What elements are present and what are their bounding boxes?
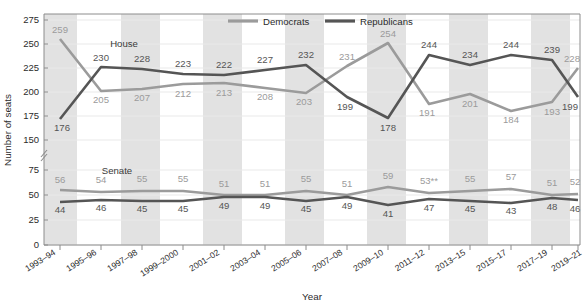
x-tick-2003-04: 2003–04: [228, 247, 262, 273]
data-label: 191: [419, 107, 435, 118]
data-label: 208: [257, 91, 273, 102]
x-tick-1993-94: 1993–94: [23, 247, 57, 273]
x-tick-2001-02: 2001–02: [187, 247, 221, 273]
data-label: 57: [506, 171, 517, 182]
data-label: 44: [55, 204, 66, 215]
data-label: 205: [93, 94, 109, 105]
x-tick-1997-98: 1997–98: [105, 247, 139, 273]
data-label: 199: [337, 101, 353, 112]
data-label: 51: [219, 178, 230, 189]
chart-container: 259 205 207 212 213 208 203 231 254 191 …: [0, 0, 587, 305]
data-label: 51: [260, 178, 271, 189]
x-tick-2019-21: 2019–21: [549, 247, 583, 273]
data-label: 43: [506, 205, 517, 216]
data-label: 201: [462, 98, 478, 109]
data-label: 45: [178, 203, 189, 214]
data-label: 48: [547, 201, 558, 212]
x-axis-title: Year: [302, 291, 323, 302]
data-label: 184: [503, 114, 520, 125]
data-label: 49: [260, 200, 271, 211]
data-label: 193: [544, 106, 560, 117]
data-label: 55: [301, 173, 312, 184]
x-tick-2011-12: 2011–12: [393, 247, 426, 273]
data-label: 47: [424, 202, 435, 213]
data-label: 45: [301, 203, 312, 214]
y-tick-0: 0: [34, 239, 39, 250]
data-label: 254: [380, 28, 397, 39]
data-label: 203: [296, 96, 312, 107]
data-label: 51: [547, 177, 558, 188]
data-label: 223: [175, 58, 191, 69]
annotation-house: House: [110, 38, 138, 49]
x-tick-2007-08: 2007–08: [310, 247, 344, 273]
data-label: 41: [383, 208, 394, 219]
seats-line-chart: 259 205 207 212 213 208 203 231 254 191 …: [0, 0, 587, 305]
data-label: 49: [219, 200, 230, 211]
data-label: 239: [544, 44, 560, 55]
x-tick-2005-06: 2005–06: [269, 247, 303, 273]
data-label: 207: [134, 92, 150, 103]
data-label: 222: [216, 59, 232, 70]
x-tick-2017-19: 2017–19: [515, 247, 549, 273]
y-tick-200: 200: [23, 86, 39, 97]
y-tick-150: 150: [23, 134, 39, 145]
data-label: 176: [54, 122, 70, 133]
legend-label-democrats[interactable]: Democrats: [263, 16, 310, 27]
x-tick-1995-96: 1995–96: [64, 247, 98, 273]
data-label: 234: [462, 49, 479, 60]
data-label: 56: [55, 174, 66, 185]
y-tick-labels: 275 250 225 200 175 150 75 50 25 0: [23, 14, 39, 250]
data-label: 178: [380, 122, 396, 133]
data-label: 230: [93, 52, 109, 63]
y-tick-75: 75: [28, 164, 39, 175]
y-tick-275: 275: [23, 14, 39, 25]
data-label: 228: [134, 53, 150, 64]
data-label: 52: [570, 176, 581, 187]
data-label: 55: [178, 173, 189, 184]
data-label: 53**: [420, 175, 438, 186]
data-label: 259: [52, 24, 68, 35]
y-tick-50: 50: [28, 189, 39, 200]
data-label: 227: [257, 54, 273, 65]
data-label: 244: [421, 39, 438, 50]
data-label: 228: [564, 53, 580, 64]
y-axis-title: Number of seats: [2, 94, 13, 166]
data-label: 55: [137, 173, 148, 184]
data-label: 231: [339, 51, 355, 62]
data-label: 199: [562, 101, 578, 112]
data-label: 51: [342, 178, 353, 189]
legend-label-republicans[interactable]: Republicans: [360, 16, 413, 27]
y-tick-25: 25: [28, 214, 39, 225]
data-label: 213: [216, 87, 232, 98]
data-label: 49: [342, 200, 353, 211]
x-tick-2013-15: 2013–15: [433, 247, 467, 273]
data-label: 59: [383, 170, 394, 181]
data-label: 244: [503, 39, 520, 50]
y-tick-225: 225: [23, 62, 39, 73]
data-label: 55: [465, 173, 476, 184]
data-label: 45: [465, 203, 476, 214]
x-tick-labels: 1993–94 1995–96 1997–98 1999–2000 2001–0…: [23, 247, 583, 278]
y-tick-175: 175: [23, 110, 39, 121]
data-label: 212: [175, 88, 191, 99]
x-tick-2009-10: 2009–10: [351, 247, 385, 273]
x-tick-2015-17: 2015–17: [474, 247, 508, 273]
x-tick-1999-2000: 1999–2000: [138, 247, 180, 278]
data-label: 232: [298, 49, 314, 60]
data-label: 45: [137, 203, 148, 214]
data-label: 46: [570, 203, 581, 214]
y-tick-250: 250: [23, 38, 39, 49]
data-label: 46: [96, 202, 107, 213]
annotation-senate: Senate: [102, 165, 132, 176]
